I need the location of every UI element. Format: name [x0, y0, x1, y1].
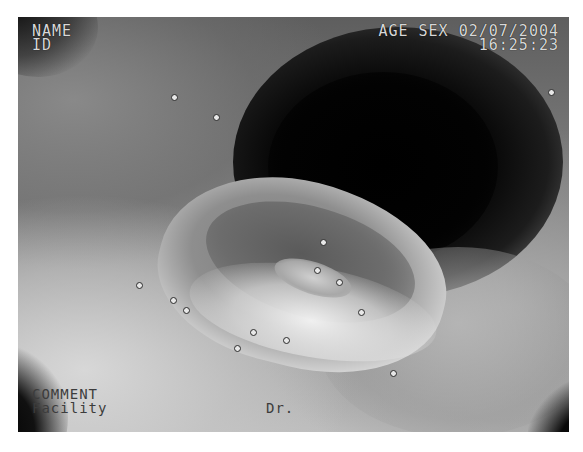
- air-bubble: [234, 345, 241, 352]
- osd-date-time: AGE SEX 02/07/2004 16:25:23: [378, 24, 559, 52]
- air-bubble: [358, 309, 365, 316]
- comment-label: COMMENT: [32, 387, 107, 401]
- air-bubble: [136, 282, 143, 289]
- time-stamp: 16:25:23: [378, 38, 559, 52]
- facility-label: Facility: [32, 401, 107, 415]
- osd-patient-info: NAME ID: [32, 24, 72, 52]
- osd-comment: COMMENT Facility: [32, 387, 107, 415]
- air-bubble: [183, 307, 190, 314]
- air-bubble: [250, 329, 257, 336]
- air-bubble: [171, 94, 178, 101]
- air-bubble: [283, 337, 290, 344]
- air-bubble: [548, 89, 555, 96]
- air-bubble: [336, 279, 343, 286]
- doctor-label: Dr.: [266, 401, 294, 415]
- id-label: ID: [32, 38, 72, 52]
- air-bubble: [390, 370, 397, 377]
- osd-doctor: Dr.: [266, 401, 294, 415]
- air-bubble: [213, 114, 220, 121]
- endoscopy-image-frame: NAME ID AGE SEX 02/07/2004 16:25:23 COMM…: [18, 17, 569, 432]
- air-bubble: [320, 239, 327, 246]
- air-bubble: [314, 267, 321, 274]
- air-bubble: [170, 297, 177, 304]
